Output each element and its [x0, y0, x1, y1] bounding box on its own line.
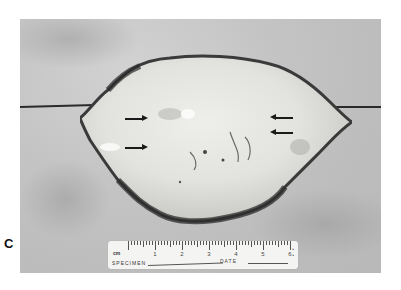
ruler-specimen-line — [148, 262, 223, 266]
ruler-number: 4 — [234, 251, 237, 257]
lesion-arrow-left-lower — [125, 147, 143, 149]
ruler-date-line — [248, 263, 288, 264]
lesion-arrow-right-upper — [275, 117, 293, 119]
lesion-arrow-right-lower — [275, 132, 293, 134]
ruler-number: 5 — [261, 251, 264, 257]
tissue-specimen — [80, 52, 352, 227]
lesion-arrow-left-upper — [125, 118, 143, 120]
ruler-number: 1 — [153, 251, 156, 257]
panel-label: C — [4, 236, 13, 251]
ruler-number: 2 — [180, 251, 183, 257]
centimeter-ruler: cm — [108, 241, 298, 269]
ruler-date-label: DATE — [220, 258, 237, 264]
specimen-shape — [80, 52, 352, 227]
ruler-number: 3 — [207, 251, 210, 257]
ruler-specimen-label: SPECIMEN — [112, 260, 146, 266]
specimen-photograph: cm — [20, 19, 381, 273]
ruler-dots: •• — [292, 246, 294, 258]
ruler-unit: cm — [113, 250, 120, 256]
ruler-number: 6 — [288, 251, 291, 257]
ruler-ticks: 1 2 3 4 5 6 — [128, 241, 290, 253]
